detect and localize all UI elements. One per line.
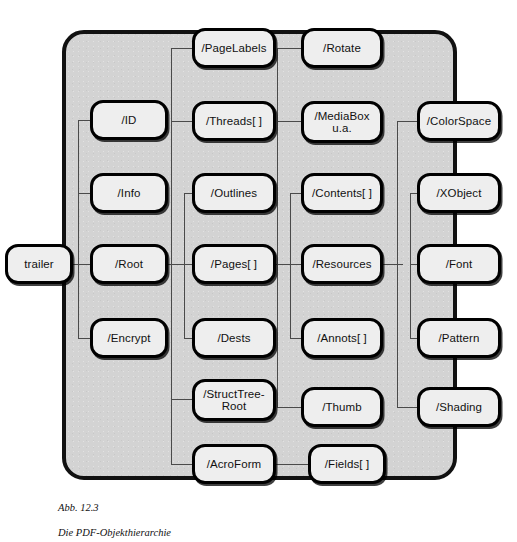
connector-col2-threads <box>171 121 193 122</box>
figure-caption-title: Die PDF-Objekthierarchie <box>58 527 171 540</box>
connector-col3-contents <box>290 193 301 194</box>
node-threads[interactable]: /Threads[ ] <box>192 101 276 141</box>
node-resources-label: /Resources <box>310 258 373 271</box>
node-structtreeroot[interactable]: /StructTree- Root <box>192 379 276 421</box>
node-root-label: /Root <box>113 258 145 271</box>
node-trailer-label: trailer <box>22 258 55 271</box>
node-mediabox-label: /MediaBox u.a. <box>312 110 371 134</box>
connector-col3-mediabox <box>277 121 301 122</box>
node-shading-label: /Shading <box>434 401 484 414</box>
node-threads-label: /Threads[ ] <box>204 115 264 128</box>
figure-caption-label: Abb. 12.3 <box>58 502 171 515</box>
connector-bus-col2-outer <box>171 48 172 464</box>
connector-col4-colorspace <box>397 121 418 122</box>
node-pattern[interactable]: /Pattern <box>417 318 501 358</box>
node-trailer[interactable]: trailer <box>5 244 73 284</box>
connector-col3-rotate <box>277 48 301 49</box>
node-id-label: /ID <box>120 114 139 127</box>
connector-col3-thumb <box>277 407 301 408</box>
node-resources[interactable]: /Resources <box>301 244 383 284</box>
node-rotate[interactable]: /Rotate <box>301 28 383 68</box>
connector-bus-col4-inner <box>410 193 411 338</box>
node-outlines[interactable]: /Outlines <box>192 173 276 213</box>
node-root[interactable]: /Root <box>90 244 168 284</box>
node-id[interactable]: /ID <box>90 100 168 140</box>
node-rotate-label: /Rotate <box>321 42 363 55</box>
connector-bus-col3-inner <box>290 193 291 338</box>
node-xobject-label: /XObject <box>435 187 484 200</box>
node-thumb[interactable]: /Thumb <box>301 387 383 427</box>
node-contents-label: /Contents[ ] <box>310 187 374 200</box>
connector-acroform-fields <box>276 464 310 465</box>
connector-bus-col3-outer <box>277 48 278 407</box>
connector-bus-col4-outer <box>397 121 398 407</box>
node-pages-label: /Pages[ ] <box>209 258 259 271</box>
node-info-label: /Info <box>116 187 143 200</box>
connector-col4-shading <box>397 407 418 408</box>
node-structtreeroot-label: /StructTree- Root <box>201 388 266 412</box>
node-xobject[interactable]: /XObject <box>417 173 501 213</box>
node-outlines-label: /Outlines <box>209 187 259 200</box>
node-shading[interactable]: /Shading <box>417 387 501 427</box>
connector-resources-stub <box>383 264 403 265</box>
connector-col3-resources <box>290 264 301 265</box>
node-contents[interactable]: /Contents[ ] <box>301 173 383 213</box>
figure-caption: Abb. 12.3 Die PDF-Objekthierarchie <box>58 489 171 542</box>
node-pages[interactable]: /Pages[ ] <box>192 244 276 284</box>
connector-col2-structtreeroot <box>171 399 193 400</box>
node-pagelabels[interactable]: /PageLabels <box>192 28 276 68</box>
node-encrypt[interactable]: /Encrypt <box>90 318 168 358</box>
node-dests-label: /Dests <box>215 332 252 345</box>
connector-col3-annots <box>290 338 301 339</box>
node-annots-label: /Annots[ ] <box>315 332 369 345</box>
node-font[interactable]: /Font <box>417 244 501 284</box>
node-font-label: /Font <box>444 258 475 271</box>
node-encrypt-label: /Encrypt <box>106 332 153 345</box>
node-pattern-label: /Pattern <box>436 332 481 345</box>
node-colorspace[interactable]: /ColorSpace <box>417 101 501 141</box>
node-acroform-label: /AcroForm <box>205 458 264 471</box>
node-pagelabels-label: /PageLabels <box>199 42 268 55</box>
node-mediabox[interactable]: /MediaBox u.a. <box>301 101 383 143</box>
connector-bus-col2-inner <box>184 193 185 338</box>
connector-col2-acroform <box>171 464 193 465</box>
node-fields-label: /Fields[ ] <box>323 458 371 471</box>
node-colorspace-label: /ColorSpace <box>425 115 493 128</box>
connector-col2-pagelabels <box>171 48 193 49</box>
connector-bus-col1 <box>78 120 79 338</box>
node-info[interactable]: /Info <box>90 173 168 213</box>
node-acroform[interactable]: /AcroForm <box>192 444 276 484</box>
node-fields[interactable]: /Fields[ ] <box>308 444 386 484</box>
node-thumb-label: /Thumb <box>320 401 364 414</box>
node-annots[interactable]: /Annots[ ] <box>301 318 383 358</box>
node-dests[interactable]: /Dests <box>192 318 276 358</box>
